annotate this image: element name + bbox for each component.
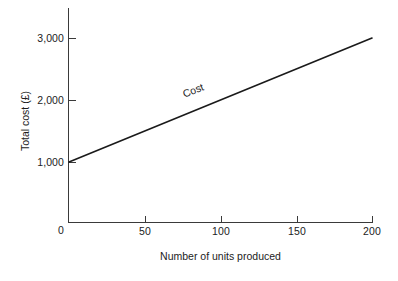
chart-figure: 3,000 2,000 1,000 50 100 150 200 0 Total…	[0, 0, 398, 281]
plot-area	[0, 0, 398, 281]
cost-series-line	[69, 38, 372, 162]
